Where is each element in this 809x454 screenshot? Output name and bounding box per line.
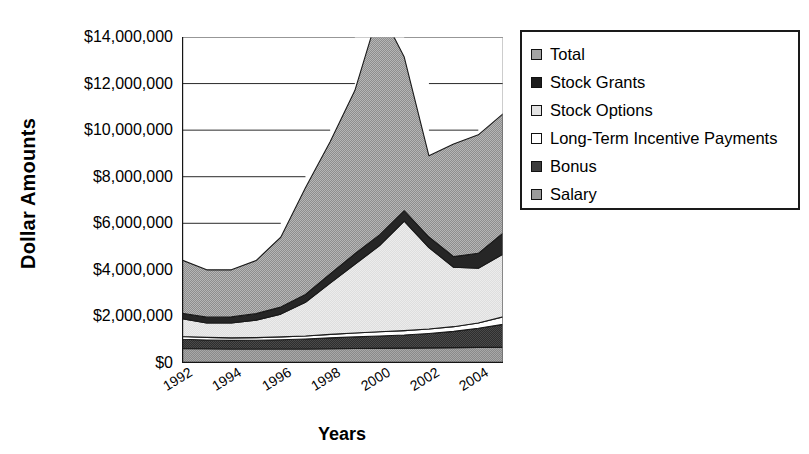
legend-swatch-stock-options-icon	[531, 105, 542, 116]
legend-item-label: Stock Options	[550, 102, 653, 119]
legend-swatch-salary-icon	[531, 189, 542, 200]
chart-legend: TotalStock GrantsStock OptionsLong-Term …	[520, 30, 800, 210]
legend-item-label: Long-Term Incentive Payments	[550, 130, 777, 147]
legend-item[interactable]: Stock Options	[531, 96, 798, 124]
legend-swatch-stock-grants-icon	[531, 77, 542, 88]
plot-area	[182, 37, 503, 363]
x-tick-label: 1996	[259, 364, 294, 394]
legend-swatch-total-icon	[531, 49, 542, 60]
x-tick-label: 1998	[308, 364, 343, 394]
legend-swatch-bonus-icon	[531, 161, 542, 172]
legend-item[interactable]: Long-Term Incentive Payments	[531, 124, 798, 152]
legend-item-label: Bonus	[550, 158, 597, 175]
legend-item[interactable]: Bonus	[531, 152, 798, 180]
x-tick-label: 2004	[456, 364, 491, 394]
legend-item[interactable]: Total	[531, 40, 798, 68]
x-tick-label: 2002	[407, 364, 442, 394]
x-tick-label: 1994	[209, 364, 244, 394]
legend-item-label: Stock Grants	[550, 74, 645, 91]
legend-item-label: Total	[550, 46, 585, 63]
x-tick-label: 1992	[160, 364, 195, 394]
chart-figure: Dollar Amounts Years $14,000,000$12,000,…	[0, 0, 809, 454]
legend-item-label: Salary	[550, 186, 597, 203]
stacked-area-svg	[182, 37, 503, 363]
legend-item[interactable]: Salary	[531, 180, 798, 208]
legend-item[interactable]: Stock Grants	[531, 68, 798, 96]
legend-swatch-ltip-icon	[531, 133, 542, 144]
x-tick-label: 2000	[358, 364, 393, 394]
